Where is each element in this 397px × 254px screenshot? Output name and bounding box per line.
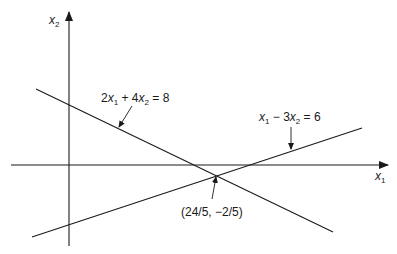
label-constraint-2: x1 − 3x2 = 6 <box>258 110 321 126</box>
y-axis-label: x2 <box>48 13 60 29</box>
x-axis-label: x1 <box>374 169 386 185</box>
pointer-arrow-constraint-1 <box>119 106 132 127</box>
line-constraint-2 <box>32 128 362 237</box>
pointer-arrow-intersection <box>212 177 216 199</box>
diagram-canvas: x2 x1 2x1 + 4x2 = 8 x1 − 3x2 = 6 (24/5, … <box>0 0 397 254</box>
intersection-label: (24/5, −2/5) <box>181 205 243 219</box>
label-constraint-1: 2x1 + 4x2 = 8 <box>101 91 170 107</box>
